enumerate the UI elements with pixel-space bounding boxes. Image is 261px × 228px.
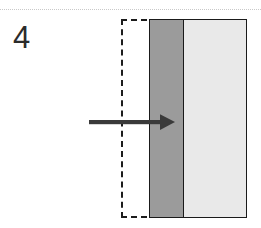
bar-group xyxy=(149,19,247,218)
bar-band-dark xyxy=(150,20,184,217)
bar-band-light xyxy=(184,20,246,217)
top-dotted-rule xyxy=(0,9,261,10)
panel-label: 4 xyxy=(13,22,30,53)
figure-canvas: 4 xyxy=(0,0,261,228)
